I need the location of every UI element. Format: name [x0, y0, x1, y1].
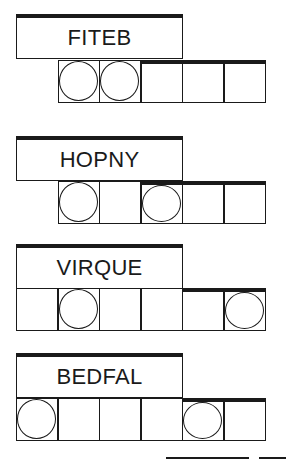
letter-cell[interactable] [224, 181, 266, 224]
letter-cell[interactable] [99, 398, 141, 441]
letter-cell[interactable] [16, 398, 58, 441]
letter-cells [16, 398, 266, 441]
letter-cell[interactable] [141, 288, 183, 331]
letter-cell[interactable] [58, 288, 100, 331]
letter-cell[interactable] [16, 288, 58, 331]
circle-marker-icon [142, 185, 181, 222]
letter-cells [16, 181, 266, 224]
letter-cell[interactable] [224, 398, 266, 441]
letter-cell[interactable] [58, 60, 100, 103]
scrambled-word: FITEB [16, 14, 183, 59]
answer-blank[interactable] [166, 457, 249, 459]
circle-marker-icon [183, 402, 222, 439]
letter-cell[interactable] [224, 288, 266, 331]
letter-cells [16, 60, 266, 103]
letter-cell[interactable] [224, 60, 266, 103]
letter-cell[interactable] [141, 398, 183, 441]
letter-cell[interactable] [141, 181, 183, 224]
letter-cell[interactable] [99, 60, 141, 103]
letter-cell[interactable] [182, 398, 224, 441]
answer-blank[interactable] [259, 457, 286, 459]
scrambled-word: BEDFAL [16, 353, 183, 398]
scrambled-word: VIRQUE [16, 244, 183, 289]
circle-marker-icon [17, 399, 56, 439]
letter-cells [16, 288, 266, 331]
letter-cell[interactable] [182, 60, 224, 103]
letter-cell[interactable] [58, 398, 100, 441]
scrambled-word: HOPNY [16, 136, 183, 181]
circle-marker-icon [59, 61, 98, 101]
letter-cell[interactable] [182, 288, 224, 331]
circle-marker-icon [225, 292, 264, 329]
letter-cell[interactable] [141, 60, 183, 103]
letter-cell[interactable] [58, 181, 100, 224]
letter-cell[interactable] [99, 181, 141, 224]
circle-marker-icon [59, 182, 98, 222]
letter-cell[interactable] [99, 288, 141, 331]
circle-marker-icon [100, 61, 139, 101]
letter-cell[interactable] [182, 181, 224, 224]
circle-marker-icon [59, 289, 98, 329]
